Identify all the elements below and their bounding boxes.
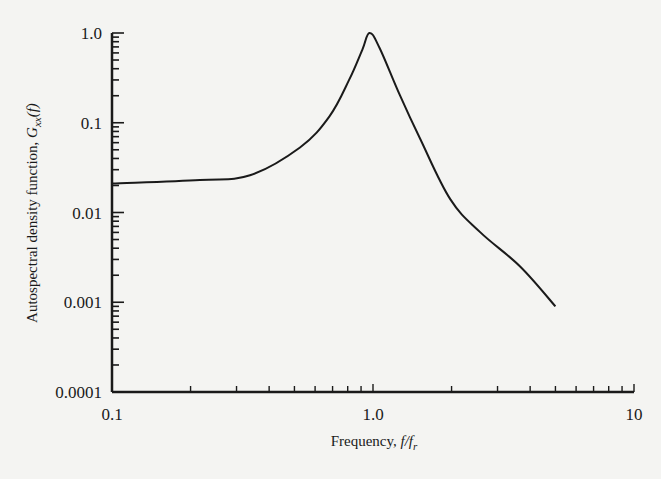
- x-axis-title: Frequency, f/fr: [331, 433, 418, 452]
- spectral-density-curve: [112, 33, 555, 306]
- y-tick-label: 1.0: [81, 24, 102, 43]
- x-tick-label: 1.0: [362, 405, 383, 424]
- axis-ticks: [112, 33, 634, 392]
- y-tick-label: 0.01: [72, 204, 102, 223]
- autospectral-density-chart: 1.00.10.010.0010.00010.11.010 Frequency,…: [0, 0, 661, 479]
- x-tick-label: 10: [626, 405, 643, 424]
- tick-labels: 1.00.10.010.0010.00010.11.010: [55, 24, 642, 424]
- y-tick-label: 0.0001: [55, 383, 102, 402]
- y-axis-title: Autospectral density function, Gxx(f): [24, 103, 43, 323]
- y-tick-label: 0.001: [64, 293, 102, 312]
- y-tick-label: 0.1: [81, 114, 102, 133]
- axes: [112, 33, 634, 392]
- x-tick-label: 0.1: [101, 405, 122, 424]
